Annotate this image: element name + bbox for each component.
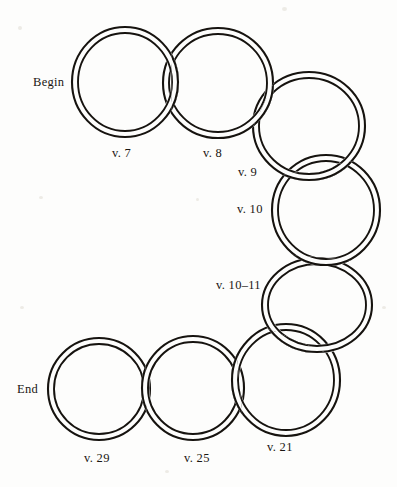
ring-outer-edge xyxy=(48,338,150,440)
ring-inner-edge xyxy=(54,344,144,434)
label-begin: Begin xyxy=(33,76,64,89)
scan-speck xyxy=(20,306,24,309)
scan-speck xyxy=(165,470,169,473)
scan-speck xyxy=(39,196,43,199)
label-ring-v21: v. 21 xyxy=(267,441,293,454)
scan-speck xyxy=(196,198,199,201)
figure-root: Begin v. 7 v. 8 v. 9 v. 10 v. 10–11 End … xyxy=(0,0,397,487)
ring-outer-edge xyxy=(142,336,244,440)
label-ring-v29: v. 29 xyxy=(84,452,110,465)
ring-8 xyxy=(48,338,150,440)
ring-inner-edge xyxy=(78,33,172,131)
ring-7 xyxy=(142,336,244,440)
ring-layer xyxy=(48,27,380,440)
scan-speck xyxy=(382,306,386,309)
label-ring-v8: v. 8 xyxy=(203,147,222,160)
ring-chain-diagram xyxy=(0,0,397,487)
scan-speck xyxy=(282,7,287,11)
label-ring-v7: v. 7 xyxy=(112,147,131,160)
scan-speck xyxy=(18,26,22,30)
ring-inner-edge xyxy=(259,78,359,174)
label-ring-v10: v. 10 xyxy=(237,203,263,216)
ring-inner-edge xyxy=(148,342,238,434)
ring-inner-edge xyxy=(169,34,267,132)
label-end: End xyxy=(17,383,38,396)
label-ring-v25: v. 25 xyxy=(184,452,210,465)
label-ring-v9: v. 9 xyxy=(238,166,257,179)
label-ring-v10-11: v. 10–11 xyxy=(216,279,261,292)
